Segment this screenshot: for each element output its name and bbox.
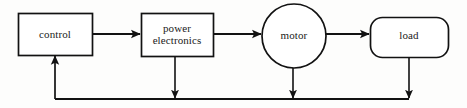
- node-motor-shape: [262, 4, 326, 68]
- node-control-shape: [19, 14, 93, 56]
- block-diagram: control power electronics motor load: [0, 0, 467, 108]
- diagram-canvas: [0, 0, 467, 108]
- node-load-shape: [371, 18, 449, 58]
- node-power-electronics-shape: [142, 14, 214, 57]
